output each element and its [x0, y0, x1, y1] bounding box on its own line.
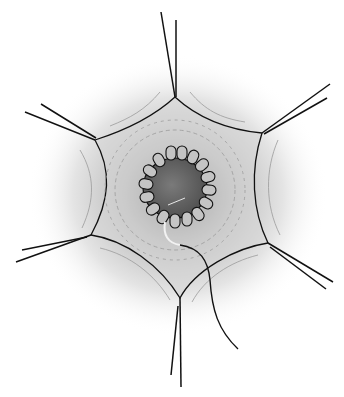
surgical-anastomosis-illustration — [0, 0, 344, 397]
